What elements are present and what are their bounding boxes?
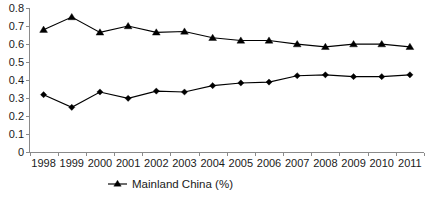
line-chart: 0.8 0.7 0.6 0.5 0.4 0.3 0.2 0.1 0 199819… [0, 0, 431, 197]
triangle-marker [124, 22, 132, 28]
x-tick-label: 2005 [229, 157, 253, 169]
diamond-marker [69, 104, 75, 110]
series-1 [40, 13, 414, 49]
x-tick-label: 2003 [172, 157, 196, 169]
diamond-marker [181, 89, 187, 95]
axis-lines [26, 8, 424, 153]
x-tick-label: 2002 [144, 157, 168, 169]
y-tick-label: 0.4 [9, 74, 24, 86]
diamond-marker [153, 88, 159, 94]
x-axis-tick-marks [31, 153, 425, 157]
y-tick-label: 0.7 [9, 20, 24, 32]
diamond-marker [238, 80, 244, 86]
x-tick-label: 2011 [398, 157, 422, 169]
y-tick-label: 0.6 [9, 38, 24, 50]
y-tick-label: 0 [18, 146, 24, 158]
diamond-marker [97, 89, 103, 95]
diamond-marker [407, 72, 413, 78]
x-tick-label: 1998 [31, 157, 55, 169]
diamond-marker [379, 74, 385, 80]
y-tick-label: 0.2 [9, 110, 24, 122]
y-axis-labels: 0.8 0.7 0.6 0.5 0.4 0.3 0.2 0.1 0 [9, 2, 24, 158]
x-tick-label: 1999 [60, 157, 84, 169]
data-series-layer [40, 13, 414, 110]
diamond-marker [40, 92, 46, 98]
x-tick-label: 2008 [313, 157, 337, 169]
triangle-marker [68, 13, 76, 19]
x-tick-label: 2001 [116, 157, 140, 169]
diamond-marker [350, 74, 356, 80]
chart-legend: Mainland China (%) [108, 178, 233, 190]
x-tick-label: 2000 [88, 157, 112, 169]
series-2 [40, 72, 413, 111]
diamond-marker [294, 73, 300, 79]
triangle-icon [114, 180, 121, 186]
y-tick-label: 0.3 [9, 92, 24, 104]
chart-canvas: 0.8 0.7 0.6 0.5 0.4 0.3 0.2 0.1 0 199819… [0, 0, 431, 197]
x-tick-label: 2006 [257, 157, 281, 169]
x-tick-label: 2010 [369, 157, 393, 169]
y-tick-label: 0.1 [9, 128, 24, 140]
x-axis-labels: 1998199920002001200220032004200520062007… [31, 157, 421, 169]
diamond-marker [266, 79, 272, 85]
y-tick-label: 0.5 [9, 56, 24, 68]
diamond-marker [125, 95, 131, 101]
legend-item-label: Mainland China (%) [132, 178, 233, 190]
x-tick-label: 2004 [200, 157, 224, 169]
x-tick-label: 2009 [341, 157, 365, 169]
diamond-marker [210, 83, 216, 89]
triangle-marker [40, 26, 48, 32]
y-tick-label: 0.8 [9, 2, 24, 14]
x-tick-label: 2007 [285, 157, 309, 169]
diamond-marker [322, 72, 328, 78]
